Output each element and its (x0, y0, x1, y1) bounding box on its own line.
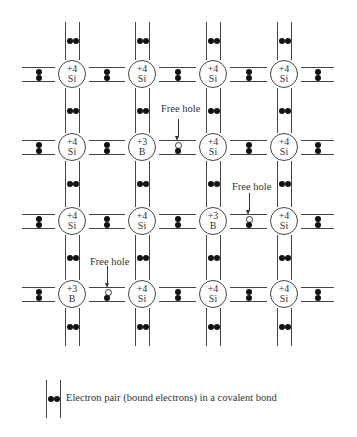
electron-icon (36, 222, 42, 228)
horizontal-bond-line (301, 228, 334, 229)
electron-icon (246, 148, 252, 154)
arrow-head-icon (175, 136, 179, 141)
electron-icon (315, 295, 321, 301)
electron-icon (214, 181, 220, 187)
horizontal-bond-line (159, 287, 196, 288)
vertical-bond-line (291, 88, 292, 133)
vertical-bond-line (65, 308, 66, 346)
silicon-atom: +4Si (58, 60, 86, 88)
horizontal-bond-line (230, 154, 267, 155)
vertical-bond-line (79, 22, 80, 60)
horizontal-bond-line (22, 67, 55, 68)
electron-icon (315, 222, 321, 228)
electron-icon (36, 295, 42, 301)
horizontal-bond-line (89, 154, 125, 155)
vertical-bond-line (291, 308, 292, 346)
horizontal-bond-line (89, 214, 125, 215)
horizontal-bond-line (159, 214, 196, 215)
silicon-atom: +4Si (58, 207, 86, 235)
atom-symbol: B (210, 221, 217, 231)
silicon-atom: +4Si (270, 207, 298, 235)
atom-symbol: Si (280, 221, 288, 231)
electron-icon (143, 324, 149, 330)
silicon-atom: +4Si (270, 60, 298, 88)
vertical-bond-line (149, 161, 150, 207)
horizontal-bond-line (230, 67, 267, 68)
arrow-icon (249, 193, 250, 211)
electron-icon (315, 148, 321, 154)
vertical-bond-line (206, 88, 207, 133)
vertical-bond-line (206, 308, 207, 346)
silicon-atom: +4Si (128, 207, 156, 235)
electron-icon (104, 222, 110, 228)
electron-icon (36, 75, 42, 81)
arrow-icon (178, 119, 179, 137)
electron-pair-bond-icon (46, 380, 62, 418)
atom-symbol: Si (209, 74, 217, 84)
electron-icon (73, 255, 79, 261)
electron-icon (143, 181, 149, 187)
silicon-atom: +4Si (270, 133, 298, 161)
vertical-bond-line (65, 235, 66, 280)
vertical-bond-line (277, 22, 278, 60)
electron-icon (214, 255, 220, 261)
atom-symbol: Si (138, 74, 146, 84)
vertical-bond-line (291, 22, 292, 60)
vertical-bond-line (135, 308, 136, 346)
electron-icon (315, 75, 321, 81)
free-hole-label-3: Free hole (90, 256, 129, 267)
vertical-bond-line (79, 235, 80, 280)
silicon-boron-lattice-diagram: +4Si+4Si+4Si+4Si+4Si+3B+4Si+4Si+4Si+4Si+… (0, 0, 357, 437)
vertical-bond-line (149, 235, 150, 280)
horizontal-bond-line (89, 67, 125, 68)
vertical-bond-line (220, 88, 221, 133)
boron-atom: +3B (58, 280, 86, 308)
free-hole-label-2: Free hole (232, 181, 271, 192)
horizontal-bond-line (159, 228, 196, 229)
horizontal-bond-line (89, 301, 125, 302)
horizontal-bond-line (89, 81, 125, 82)
vertical-bond-line (79, 88, 80, 133)
atom-symbol: Si (68, 147, 76, 157)
vertical-bond-line (149, 88, 150, 133)
vertical-bond-line (79, 161, 80, 207)
electron-icon (246, 75, 252, 81)
vertical-bond-line (79, 308, 80, 346)
horizontal-bond-line (22, 287, 55, 288)
vertical-bond-line (277, 235, 278, 280)
electron-icon (285, 255, 291, 261)
electron-icon (285, 38, 291, 44)
electron-icon (73, 324, 79, 330)
electron-icon (175, 222, 181, 228)
electron-icon (36, 148, 42, 154)
horizontal-bond-line (301, 81, 334, 82)
horizontal-bond-line (22, 301, 55, 302)
vertical-bond-line (291, 235, 292, 280)
silicon-atom: +4Si (128, 60, 156, 88)
electron-icon (104, 295, 110, 301)
atom-symbol: B (69, 294, 76, 304)
atom-symbol: Si (138, 294, 146, 304)
horizontal-bond-line (159, 81, 196, 82)
vertical-bond-line (206, 161, 207, 207)
horizontal-bond-line (159, 301, 196, 302)
vertical-bond-line (291, 161, 292, 207)
vertical-bond-line (277, 161, 278, 207)
vertical-bond-line (135, 88, 136, 133)
horizontal-bond-line (22, 154, 55, 155)
electron-icon (285, 181, 291, 187)
arrow-head-icon (105, 283, 109, 288)
horizontal-bond-line (22, 81, 55, 82)
horizontal-bond-line (22, 228, 55, 229)
vertical-bond-line (149, 22, 150, 60)
atom-symbol: Si (68, 74, 76, 84)
horizontal-bond-line (301, 287, 334, 288)
vertical-bond-line (206, 235, 207, 280)
vertical-bond-line (220, 22, 221, 60)
horizontal-bond-line (230, 140, 267, 141)
silicon-atom: +4Si (199, 60, 227, 88)
vertical-bond-line (277, 308, 278, 346)
electron-icon (73, 108, 79, 114)
legend-text: Electron pair (bound electrons) in a cov… (66, 392, 277, 403)
vertical-bond-line (149, 308, 150, 346)
